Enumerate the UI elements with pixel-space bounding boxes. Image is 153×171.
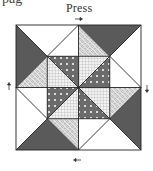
arrow-down-icon [146, 85, 149, 93]
arrow-right-icon [75, 18, 83, 21]
arrow-up-icon [8, 83, 11, 91]
quilt-block-diagram [0, 0, 153, 171]
block-group [16, 25, 141, 150]
arrow-left-icon [74, 159, 82, 162]
seam-lines [16, 25, 141, 150]
